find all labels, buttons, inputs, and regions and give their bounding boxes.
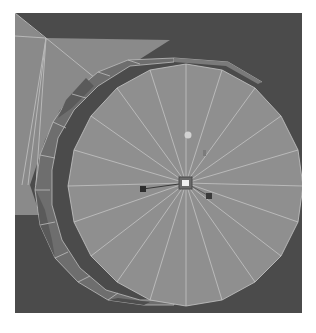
z-axis-handle[interactable] <box>206 193 212 199</box>
scene-canvas[interactable] <box>15 13 302 313</box>
3d-viewport[interactable] <box>15 13 302 313</box>
pivot-marker <box>203 150 206 156</box>
center-handle[interactable] <box>182 180 189 186</box>
x-axis-handle[interactable] <box>140 186 146 192</box>
y-axis-handle[interactable] <box>185 132 192 139</box>
